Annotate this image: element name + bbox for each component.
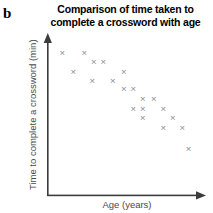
scatter-point: ×: [119, 84, 128, 93]
scatter-point: ×: [119, 67, 128, 76]
scatter-point: ×: [88, 76, 97, 85]
scatter-point: ×: [168, 113, 177, 122]
scatter-point: ×: [159, 104, 168, 113]
scatter-point: ×: [138, 113, 147, 122]
scatter-point: ×: [108, 76, 117, 85]
scatter-point: ×: [69, 67, 78, 76]
scatter-point: ×: [159, 123, 168, 132]
y-axis-label: Time to complete a crossword (min): [28, 35, 38, 195]
scatter-point: ×: [184, 144, 193, 153]
scatter-point: ×: [178, 123, 187, 132]
scatter-point: ×: [58, 48, 67, 57]
scatter-point: ×: [80, 48, 89, 57]
scatter-point: ×: [99, 57, 108, 66]
plot-area: ××××××××××××××××××××: [48, 36, 206, 196]
scatter-point: ×: [149, 94, 158, 103]
scatter-chart-figure: b Comparison of time taken to complete a…: [0, 0, 213, 213]
scatter-point: ×: [129, 104, 138, 113]
scatter-point: ×: [129, 84, 138, 93]
scatter-point: ×: [138, 94, 147, 103]
scatter-point: ×: [89, 57, 98, 66]
x-axis-label: Age (years): [48, 200, 206, 210]
